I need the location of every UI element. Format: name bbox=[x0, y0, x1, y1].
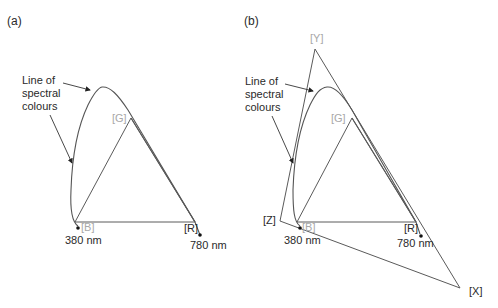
arrow-to-top-b bbox=[285, 84, 313, 91]
arrow-to-side-b bbox=[272, 116, 293, 163]
rgb-gamut-triangle-b bbox=[297, 118, 416, 222]
panel-b: (b) Line of spectral colours [G] [B] [R]… bbox=[244, 14, 482, 297]
label-X: [X] bbox=[469, 285, 482, 297]
panel-a: (a) Line of spectral colours [G] [B] [R]… bbox=[7, 14, 227, 251]
xyz-triangle bbox=[280, 49, 460, 288]
label-R-b: [R] bbox=[404, 222, 418, 234]
arrow-to-top-a bbox=[63, 83, 90, 90]
label-380nm-a: 380 nm bbox=[65, 234, 102, 246]
rgb-gamut-triangle-a bbox=[75, 118, 195, 222]
annotation-a: Line of spectral colours bbox=[22, 74, 64, 112]
panel-b-label: (b) bbox=[244, 14, 259, 28]
label-380nm-b: 380 nm bbox=[284, 234, 321, 246]
annotation-b: Line of spectral colours bbox=[245, 75, 287, 113]
dot-380nm-a bbox=[76, 226, 80, 230]
label-Y: [Y] bbox=[310, 32, 323, 44]
label-G-a: [G] bbox=[112, 112, 127, 124]
arrow-to-side-a bbox=[50, 115, 72, 163]
chromaticity-diagrams: (a) Line of spectral colours [G] [B] [R]… bbox=[0, 0, 498, 308]
spectral-locus-a bbox=[71, 87, 200, 235]
label-B-a: [B] bbox=[81, 221, 94, 233]
spectral-locus-b bbox=[293, 87, 420, 234]
label-B-b: [B] bbox=[302, 221, 315, 233]
label-780nm-b: 780 nm bbox=[397, 237, 434, 249]
label-R-a: [R] bbox=[184, 222, 198, 234]
panel-a-label: (a) bbox=[7, 14, 22, 28]
dot-780nm-a bbox=[198, 233, 202, 237]
label-G-b: [G] bbox=[331, 112, 346, 124]
label-Z: [Z] bbox=[263, 214, 276, 226]
label-780nm-a: 780 nm bbox=[190, 239, 227, 251]
